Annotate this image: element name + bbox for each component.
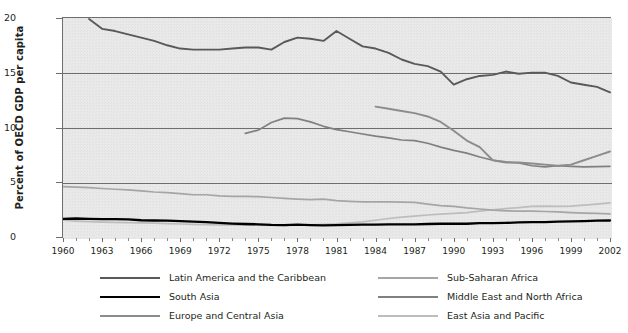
x-tick-mark bbox=[297, 238, 298, 242]
x-tick-label: 1987 bbox=[395, 246, 435, 256]
x-tick-mark bbox=[102, 238, 103, 242]
x-tick-mark bbox=[219, 238, 220, 242]
x-tick-mark bbox=[571, 238, 572, 242]
x-tick-mark-minor bbox=[506, 238, 507, 241]
x-tick-label: 1966 bbox=[121, 246, 161, 256]
x-tick-mark-minor bbox=[545, 238, 546, 241]
legend-label: East Asia and Pacific bbox=[447, 310, 545, 321]
x-tick-mark-minor bbox=[89, 238, 90, 241]
legend-item[interactable]: Middle East and North Africa bbox=[378, 291, 583, 302]
x-tick-mark-minor bbox=[167, 238, 168, 241]
y-tick-label: 0 bbox=[0, 231, 16, 242]
x-tick-mark-minor bbox=[284, 238, 285, 241]
legend-swatch bbox=[378, 296, 438, 298]
x-tick-mark-minor bbox=[389, 238, 390, 241]
x-tick-mark-minor bbox=[441, 238, 442, 241]
chart-figure: Percent of OECD GDP per capita 05101520 … bbox=[0, 0, 628, 333]
x-tick-mark-minor bbox=[232, 238, 233, 241]
x-tick-label: 1984 bbox=[356, 246, 396, 256]
x-tick-mark-minor bbox=[206, 238, 207, 241]
x-tick-label: 1969 bbox=[160, 246, 200, 256]
x-tick-mark bbox=[141, 238, 142, 242]
x-tick-mark bbox=[610, 238, 611, 242]
x-tick-mark-minor bbox=[558, 238, 559, 241]
legend-swatch bbox=[378, 315, 438, 317]
legend-item[interactable]: East Asia and Pacific bbox=[378, 310, 545, 321]
y-tick-label: 5 bbox=[0, 176, 16, 187]
x-tick-mark-minor bbox=[519, 238, 520, 241]
x-tick-mark-minor bbox=[363, 238, 364, 241]
x-tick-label: 2002 bbox=[590, 246, 628, 256]
x-tick-mark bbox=[493, 238, 494, 242]
legend-item[interactable]: Sub-Saharan Africa bbox=[378, 272, 538, 283]
x-tick-label: 1975 bbox=[238, 246, 278, 256]
series-canvas bbox=[63, 18, 612, 239]
x-tick-label: 1996 bbox=[512, 246, 552, 256]
legend-label: South Asia bbox=[169, 291, 220, 302]
x-tick-mark bbox=[337, 238, 338, 242]
x-tick-mark-minor bbox=[115, 238, 116, 241]
x-tick-label: 1999 bbox=[551, 246, 591, 256]
x-tick-label: 1960 bbox=[43, 246, 83, 256]
legend-label: Latin America and the Caribbean bbox=[169, 272, 326, 283]
x-tick-mark bbox=[454, 238, 455, 242]
x-tick-mark-minor bbox=[323, 238, 324, 241]
x-tick-mark bbox=[415, 238, 416, 242]
x-tick-mark bbox=[180, 238, 181, 242]
x-tick-mark-minor bbox=[245, 238, 246, 241]
x-tick-mark-minor bbox=[154, 238, 155, 241]
x-tick-mark-minor bbox=[402, 238, 403, 241]
y-axis-title: Percent of OECD GDP per capita bbox=[14, 8, 25, 228]
x-tick-mark-minor bbox=[428, 238, 429, 241]
y-tick-label: 15 bbox=[0, 67, 16, 78]
x-tick-label: 1981 bbox=[317, 246, 357, 256]
chart-legend: Latin America and the CaribbeanSouth Asi… bbox=[100, 272, 600, 328]
x-tick-mark bbox=[532, 238, 533, 242]
x-tick-mark-minor bbox=[584, 238, 585, 241]
x-tick-mark-minor bbox=[193, 238, 194, 241]
x-tick-mark-minor bbox=[350, 238, 351, 241]
x-tick-mark bbox=[258, 238, 259, 242]
x-tick-mark-minor bbox=[76, 238, 77, 241]
legend-item[interactable]: South Asia bbox=[100, 291, 220, 302]
legend-item[interactable]: Latin America and the Caribbean bbox=[100, 272, 326, 283]
x-tick-label: 1963 bbox=[82, 246, 122, 256]
x-tick-mark-minor bbox=[271, 238, 272, 241]
legend-label: Europe and Central Asia bbox=[169, 310, 284, 321]
x-tick-mark-minor bbox=[597, 238, 598, 241]
y-tick-label: 10 bbox=[0, 122, 16, 133]
legend-label: Sub-Saharan Africa bbox=[447, 272, 538, 283]
x-tick-label: 1993 bbox=[473, 246, 513, 256]
x-tick-mark-minor bbox=[310, 238, 311, 241]
legend-swatch bbox=[100, 315, 160, 317]
x-tick-label: 1978 bbox=[277, 246, 317, 256]
legend-swatch bbox=[100, 277, 160, 279]
x-tick-label: 1972 bbox=[199, 246, 239, 256]
legend-swatch bbox=[100, 296, 160, 298]
legend-swatch bbox=[378, 277, 438, 279]
x-tick-mark bbox=[376, 238, 377, 242]
x-tick-mark-minor bbox=[467, 238, 468, 241]
x-tick-mark bbox=[63, 238, 64, 242]
legend-label: Middle East and North Africa bbox=[447, 291, 583, 302]
legend-item[interactable]: Europe and Central Asia bbox=[100, 310, 284, 321]
plot-area bbox=[62, 17, 611, 238]
x-tick-mark-minor bbox=[128, 238, 129, 241]
x-tick-mark-minor bbox=[480, 238, 481, 241]
y-tick-label: 20 bbox=[0, 12, 16, 23]
x-tick-label: 1990 bbox=[434, 246, 474, 256]
